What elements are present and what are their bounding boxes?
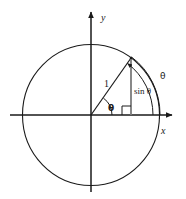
sine-segment-label: sin θ [134,87,151,96]
arc-angle-label: θ [160,72,166,81]
figure-canvas [0,0,186,199]
y-axis-label: y [101,13,105,23]
unit-circle-figure: y x 1 θ sin θ θ [0,0,186,199]
right-angle-marker-icon [122,106,131,115]
origin-angle-label: θ [108,104,114,113]
radius-length-label: 1 [104,79,109,89]
circle-point [130,57,133,60]
x-axis-label: x [161,126,165,136]
